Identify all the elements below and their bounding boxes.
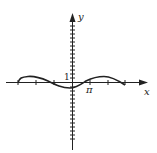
x-axis-arrow-icon [139,80,148,86]
x-axis-label: x [144,86,150,97]
y-axis-label: y [77,11,84,22]
y-axis [70,18,75,150]
graph: y x π 1 [0,0,157,153]
one-tick-label: 1 [64,72,70,82]
pi-tick-label: π [85,84,93,95]
y-axis-arrow-icon [70,13,76,22]
